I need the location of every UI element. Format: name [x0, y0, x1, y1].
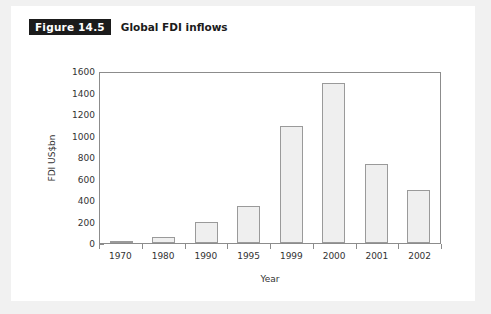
y-tick-label: 600	[78, 175, 95, 185]
bar-2002	[407, 190, 430, 243]
x-tick-label-1970: 1970	[99, 251, 142, 261]
bar-slot	[100, 73, 143, 243]
y-tick-label: 1000	[72, 132, 95, 142]
x-tick-mark	[313, 244, 314, 249]
bar-1995	[237, 206, 260, 243]
x-tick-label-2001: 2001	[356, 251, 399, 261]
bar-2000	[322, 83, 345, 243]
x-tick-label-1995: 1995	[227, 251, 270, 261]
y-tick-label: 200	[78, 218, 95, 228]
y-axis-title: FDI US$bn	[47, 134, 57, 181]
bar-chart: 02004006008001000120014001600 FDI US$bn …	[11, 6, 475, 301]
x-tick-label-1999: 1999	[270, 251, 313, 261]
x-axis-tick-marks	[99, 244, 441, 250]
y-tick-label: 1200	[72, 110, 95, 120]
bar-1990	[195, 222, 218, 244]
x-tick-label-1980: 1980	[142, 251, 185, 261]
bar-slot	[228, 73, 271, 243]
figure-card: Figure 14.5 Global FDI inflows 020040060…	[11, 6, 475, 301]
bar-slot	[398, 73, 441, 243]
x-tick-mark	[270, 244, 271, 249]
x-tick-label-2002: 2002	[398, 251, 441, 261]
bar-1999	[280, 126, 303, 243]
bar-slot	[143, 73, 186, 243]
x-tick-mark	[99, 244, 100, 249]
x-axis-title: Year	[99, 274, 441, 284]
bar-slot	[270, 73, 313, 243]
bar-1970	[110, 241, 133, 243]
x-axis-tick-labels: 19701980199019951999200020012002	[99, 251, 441, 261]
y-tick-label: 400	[78, 196, 95, 206]
x-tick-mark	[398, 244, 399, 249]
x-tick-mark	[185, 244, 186, 249]
y-tick-label: 1400	[72, 89, 95, 99]
screenshot-root: Figure 14.5 Global FDI inflows 020040060…	[0, 0, 491, 314]
y-tick-label: 800	[78, 153, 95, 163]
plot-area	[99, 72, 441, 244]
bar-slot	[185, 73, 228, 243]
bar-slot	[313, 73, 356, 243]
x-tick-mark	[441, 244, 442, 249]
bar-2001	[365, 164, 388, 243]
bar-series	[100, 73, 440, 243]
bar-slot	[355, 73, 398, 243]
x-tick-label-1990: 1990	[185, 251, 228, 261]
x-tick-label-2000: 2000	[313, 251, 356, 261]
bar-1980	[152, 237, 175, 243]
x-tick-mark	[227, 244, 228, 249]
y-axis-tick-labels: 02004006008001000120014001600	[63, 72, 95, 244]
x-tick-mark	[142, 244, 143, 249]
x-tick-mark	[356, 244, 357, 249]
y-tick-label: 0	[89, 239, 95, 249]
y-tick-label: 1600	[72, 67, 95, 77]
